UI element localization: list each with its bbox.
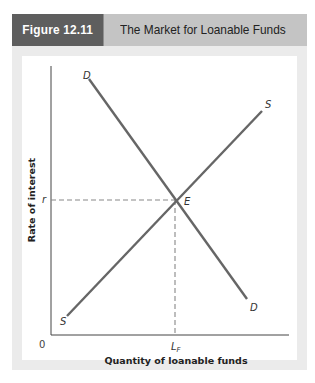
demand-label-top: D (83, 70, 91, 81)
quantity-tick-label: LF (171, 341, 182, 354)
interest-rate-tick-label: r (42, 194, 47, 205)
x-axis-title: Quantity of loanable funds (104, 355, 247, 366)
y-axis-title: Rate of interest (26, 157, 37, 242)
supply-label-top: S (265, 99, 272, 110)
equilibrium-label: E (184, 196, 191, 207)
loanable-funds-chart: D D S S E r LF 0 Quantity of loanable fu… (0, 0, 315, 383)
demand-label-bottom: D (250, 302, 258, 313)
supply-curve (67, 111, 262, 316)
supply-label-bottom: S (60, 316, 67, 327)
demand-curve (89, 79, 247, 299)
origin-label: 0 (39, 339, 45, 350)
